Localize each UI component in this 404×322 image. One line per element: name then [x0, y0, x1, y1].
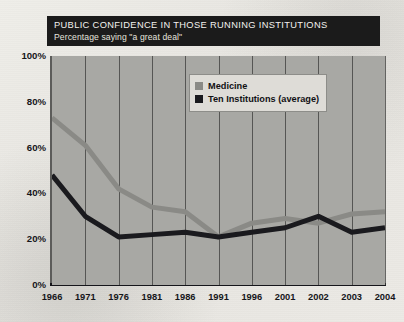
legend-item-label: Medicine — [208, 80, 247, 92]
legend-swatch-medicine — [195, 82, 203, 90]
series-line-ten-institutions-average — [52, 175, 385, 237]
gridline-2004 — [385, 56, 386, 285]
x-tick-label-2004: 2004 — [362, 291, 404, 303]
y-tick-label-20pct: 20% — [2, 234, 46, 244]
legend-swatch-ten-institutions — [195, 95, 203, 103]
chart-title-bar: PUBLIC CONFIDENCE IN THOSE RUNNING INSTI… — [47, 16, 380, 46]
y-axis-labels: 0%20%40%60%80%100% — [0, 0, 46, 322]
y-tick-label-40pct: 40% — [2, 188, 46, 198]
y-tick-label-0pct: 0% — [2, 280, 46, 290]
chart-page: PUBLIC CONFIDENCE IN THOSE RUNNING INSTI… — [0, 0, 404, 322]
legend-item-label: Ten Institutions (average) — [208, 93, 319, 105]
chart-subtitle: Percentage saying "a great deal" — [54, 31, 380, 43]
legend-item-medicine: Medicine — [195, 80, 319, 92]
chart-title: PUBLIC CONFIDENCE IN THOSE RUNNING INSTI… — [54, 19, 380, 31]
y-tick-label-100pct: 100% — [2, 51, 46, 61]
chart-legend: MedicineTen Institutions (average) — [189, 74, 327, 112]
x-axis-labels: 1966197119761981198619911996200120022003… — [52, 291, 388, 307]
legend-item-ten-institutions-average: Ten Institutions (average) — [195, 93, 319, 105]
series-line-medicine — [52, 118, 385, 237]
y-tick-label-80pct: 80% — [2, 97, 46, 107]
y-tick-label-60pct: 60% — [2, 143, 46, 153]
